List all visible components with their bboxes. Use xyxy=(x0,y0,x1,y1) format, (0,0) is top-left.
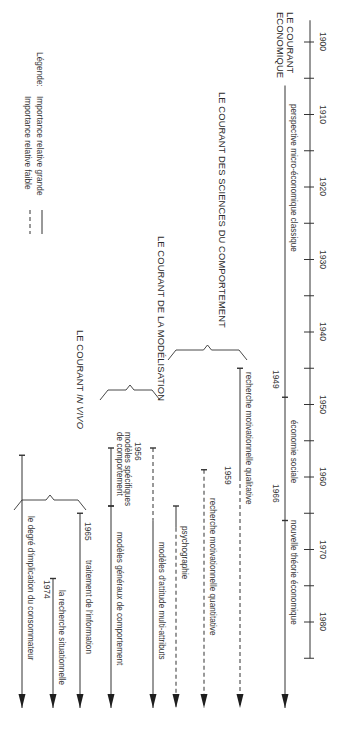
legend-item-dashed: Importance relative faible xyxy=(24,96,32,190)
time-axis xyxy=(304,20,314,658)
label-recherche-situationnelle: la recherche situationnelle xyxy=(57,590,65,685)
current-title-invivo: LE COURANT IN VIVO xyxy=(76,330,85,429)
axis-label-1910: 1910 xyxy=(318,105,327,124)
stream-attitude-multi xyxy=(150,448,157,708)
label-degre-implication: le degré d'implication du consommateur xyxy=(26,516,34,660)
arrow-down-icon xyxy=(150,694,157,708)
label-nouvelle-theorie: nouvelle théorie économique xyxy=(289,520,297,625)
label-modeles-generaux: modèles généraux de comportement xyxy=(115,532,123,665)
label-traitement-information: traitement de l'information xyxy=(84,560,92,654)
label-micro-economique: perspective micro-économique classique xyxy=(289,104,297,252)
legend-title: Légende: xyxy=(36,52,44,87)
axis-label-1930: 1930 xyxy=(318,250,327,269)
label-economie-sociale: économie sociale xyxy=(289,420,297,483)
current-title-comportement: LE COURANT DES SCIENCES DU COMPORTEMENT xyxy=(218,92,227,328)
label-attitude-multi: modèles d'attitude multi-attributs xyxy=(157,542,165,660)
axis-label-1970: 1970 xyxy=(318,540,327,559)
stream-traitement-information xyxy=(77,513,84,708)
axis-label-1980: 1980 xyxy=(318,612,327,631)
stream-degre-implication xyxy=(19,455,26,708)
arrow-down-icon xyxy=(173,694,180,708)
year-1974: 1974 xyxy=(43,580,51,599)
arrow-down-icon xyxy=(282,694,289,708)
stream-nouvelle-theorie xyxy=(282,521,289,709)
label-motiv-quantitative: recherche motivationnelle quantitative xyxy=(208,498,216,635)
label-modeles-specifiques: modèles spécifiques de comportement xyxy=(115,432,131,506)
axis-label-1900: 1900 xyxy=(318,32,327,51)
year-1965: 1965 xyxy=(84,522,92,541)
label-psychographie: psychographie xyxy=(180,526,188,579)
label-modeles-specifiques-line1: modèles spécifiques xyxy=(123,432,132,506)
brace-modelisation xyxy=(100,385,160,400)
legend-lines xyxy=(30,210,42,234)
brace-invivo xyxy=(14,495,86,510)
label-modeles-specifiques-line2: de comportement xyxy=(115,432,124,496)
axis-label-1940: 1940 xyxy=(318,322,327,341)
axis-label-1960: 1960 xyxy=(318,467,327,486)
year-1966: 1966 xyxy=(272,484,280,503)
axis-label-1950: 1950 xyxy=(318,395,327,414)
stream-modeles-generaux xyxy=(108,506,115,708)
label-motiv-qualitative: recherche motivationnelle qualitative xyxy=(244,372,252,504)
arrow-down-icon xyxy=(50,694,57,708)
arrow-down-icon xyxy=(108,694,115,708)
current-title-economique-line2: ECONOMIQUE xyxy=(275,12,286,78)
current-title-modelisation: LE COURANT DE LA MODÉLISATION xyxy=(157,236,166,401)
stream-motiv-qualitative xyxy=(237,368,244,708)
arrow-down-icon xyxy=(77,694,84,708)
year-1949: 1949 xyxy=(272,370,280,389)
arrow-down-icon xyxy=(201,694,208,708)
arrow-down-icon xyxy=(19,694,26,708)
stream-psychographie xyxy=(173,506,180,708)
legend-item-solid: Importance relative grande xyxy=(36,96,44,196)
current-title-invivo-italic: IN VIVO xyxy=(75,394,86,429)
year-1956: 1956 xyxy=(134,442,142,461)
stream-modeles-specifiques xyxy=(108,448,114,506)
current-title-economique: LE COURANT ECONOMIQUE xyxy=(276,12,295,78)
brace-comportement xyxy=(168,345,247,360)
current-title-invivo-prefix: LE COURANT xyxy=(75,330,86,394)
current-title-economique-line1: LE COURANT xyxy=(285,12,296,73)
year-1959: 1959 xyxy=(224,466,232,485)
stream-motiv-quantitative xyxy=(201,470,208,708)
arrow-down-icon xyxy=(237,694,244,708)
axis-label-1920: 1920 xyxy=(318,177,327,196)
stream-economie-sociale xyxy=(282,397,288,520)
